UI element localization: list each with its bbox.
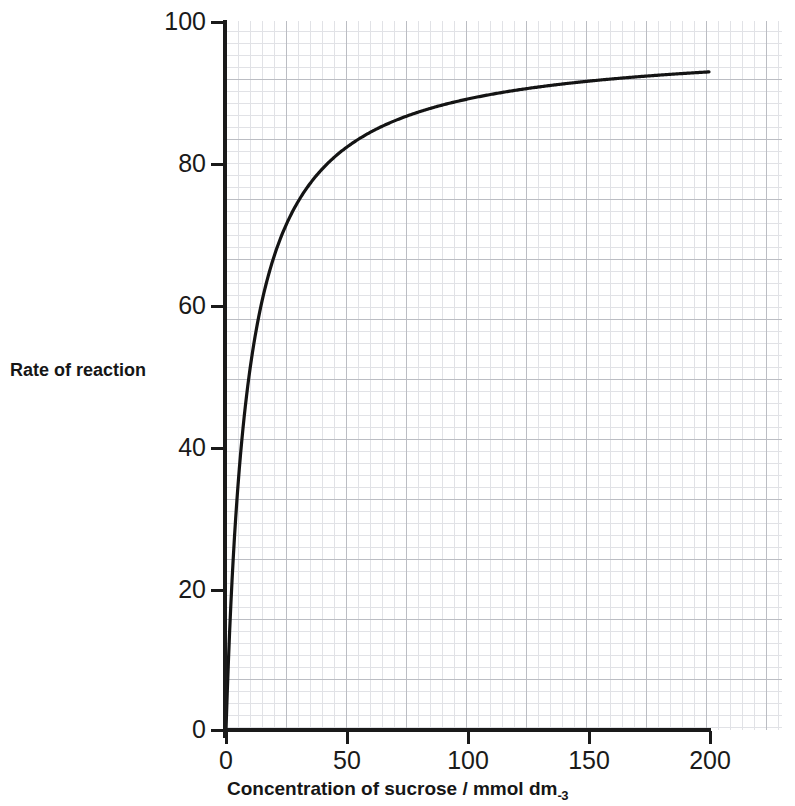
- y-axis-title: Rate of reaction: [10, 360, 146, 381]
- x-tick-label-200: 200: [660, 746, 760, 775]
- y-tick-label-0: 0: [86, 715, 206, 744]
- x-axis-title-exponent: -3: [557, 788, 568, 803]
- y-tick-label-80: 80: [86, 149, 206, 178]
- x-axis-title-text: Concentration of sucrose / mmol dm: [227, 778, 557, 799]
- y-tick-0: [211, 729, 224, 732]
- rate-of-reaction-curve: [226, 72, 709, 730]
- x-tick-label-150: 150: [539, 746, 639, 775]
- y-tick-label-40: 40: [86, 433, 206, 462]
- plot-area: [226, 21, 782, 730]
- x-tick-label-0: 0: [176, 746, 276, 775]
- rate-curve-svg: [226, 21, 782, 730]
- y-tick-label-100: 100: [86, 7, 206, 36]
- x-tick-150: [588, 731, 591, 744]
- y-tick-60: [211, 305, 224, 308]
- x-tick-0: [225, 731, 228, 744]
- x-tick-label-100: 100: [418, 746, 518, 775]
- x-tick-200: [709, 731, 712, 744]
- y-tick-label-20: 20: [86, 575, 206, 604]
- x-axis-title: Concentration of sucrose / mmol dm-3: [0, 778, 795, 803]
- x-tick-100: [467, 731, 470, 744]
- y-tick-label-60: 60: [86, 291, 206, 320]
- y-tick-20: [211, 589, 224, 592]
- chart-page: 100 80 60 40 20 0 0 50 100 150 200 Rate …: [0, 0, 795, 806]
- y-tick-80: [211, 163, 224, 166]
- y-axis-line: [223, 20, 227, 738]
- y-tick-40: [211, 447, 224, 450]
- x-tick-label-50: 50: [297, 746, 397, 775]
- y-tick-100: [211, 21, 224, 24]
- x-tick-50: [346, 731, 349, 744]
